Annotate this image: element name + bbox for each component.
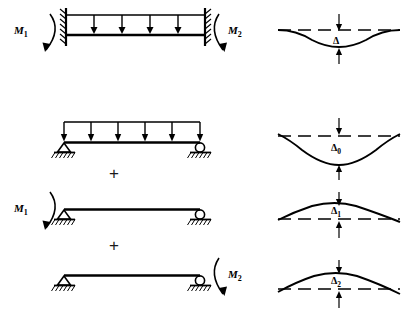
row-1-beam-graphic bbox=[0, 0, 419, 317]
roller-support-right-row3 bbox=[188, 210, 212, 225]
deflection-label-delta2: Δ2 bbox=[331, 276, 341, 290]
moment-label-m2-row1: M2 bbox=[228, 25, 242, 40]
pin-support-left-row2 bbox=[52, 143, 76, 158]
moment-label-m1-row1: M1 bbox=[14, 25, 28, 40]
moment-arc-right-row1 bbox=[214, 14, 227, 52]
moment-arc-right-row4 bbox=[214, 258, 227, 296]
roller-support-right-row4 bbox=[188, 276, 212, 291]
load-arrows-row2 bbox=[61, 122, 203, 142]
deflection-label-delta0: Δ0 bbox=[331, 143, 341, 157]
load-arrows-row1 bbox=[91, 15, 182, 34]
moment-label-m1-row3: M1 bbox=[14, 203, 28, 218]
fixed-support-left-row1 bbox=[60, 8, 66, 46]
moment-label-m2-row4: M2 bbox=[228, 269, 242, 284]
moment-arc-left-row3 bbox=[43, 192, 56, 230]
plus-operator-1: + bbox=[109, 165, 119, 182]
moment-arc-left-row1 bbox=[43, 14, 56, 52]
deflection-label-delta: Δ bbox=[333, 36, 339, 50]
pin-support-left-row4 bbox=[52, 276, 76, 291]
figure-canvas: M1 M2 M1 M2 + + Δ Δ0 Δ1 Δ2 bbox=[0, 0, 419, 317]
roller-support-right-row2 bbox=[188, 143, 212, 158]
fixed-support-right-row1 bbox=[205, 8, 211, 46]
deflection-label-delta1: Δ1 bbox=[331, 206, 341, 220]
plus-operator-2: + bbox=[109, 237, 119, 254]
